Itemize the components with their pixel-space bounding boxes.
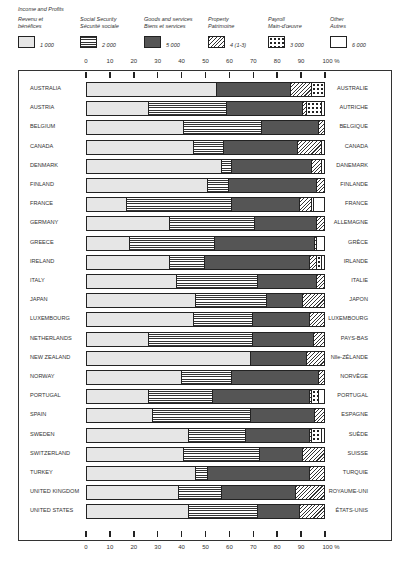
bar-segment-property [291,83,312,96]
legend-value: 6 000 [352,42,366,49]
legend-label-fr: Patrimoine [208,23,234,30]
bar-segment-goods [229,179,317,192]
chart-row: NEW ZEALANDNlle-ZÉLANDE [0,349,404,368]
tick-label: 20 [130,544,137,550]
legend-item-goods: Goods and servicesBiens et services5 000 [144,16,193,30]
bar-segment-other [322,141,324,154]
country-label-en: DENMARK [30,162,58,168]
chart-row: FINLANDFINLANDE [0,176,404,195]
tick-mark [229,531,231,537]
legend-label-en: Goods and services [144,16,193,23]
stacked-bar [86,312,325,327]
bar-segment-property [298,141,322,154]
stacked-bar [86,447,325,462]
bar-segment-property [303,294,324,307]
bar-segment-goods [222,486,295,499]
legend-item-other: OtherAutres6 000 [330,16,346,30]
stacked-bar [86,159,325,174]
tick-label: 0 [84,544,87,550]
bar-segment-income [87,429,189,442]
tick-mark [205,531,207,537]
bar-segment-goods [232,160,313,173]
stacked-bar [86,236,325,251]
country-label-en: SWEDEN [30,431,55,437]
bar-segment-goods [267,294,303,307]
country-label-en: JAPAN [30,296,48,302]
bar-segment-property [317,275,324,288]
legend-label-fr: Sécurité sociale [80,23,119,30]
legend-value: 4 (1-3) [230,42,246,49]
chart-row: AUSTRALIAAUSTRALIE [0,80,404,99]
legend-label-en: Property [208,16,234,23]
bar-segment-ss [177,275,258,288]
stacked-bar [86,82,325,97]
tick-label: 100 % [322,544,339,550]
bar-segment-ss [153,409,250,422]
country-label-en: CANADA [30,143,53,149]
bar-segment-goods [262,121,319,134]
chart-row: AUSTRIAAUTRICHE [0,99,404,118]
tick-mark [276,531,278,537]
country-label-fr: PAYS-BAS [341,335,368,341]
chart-row: IRELANDIRLANDE [0,253,404,272]
bar-segment-income [87,160,222,173]
country-label-en: SPAIN [30,411,46,417]
country-label-fr: Nlle-ZÉLANDE [331,354,368,360]
bar-segment-other [322,429,324,442]
bar-segment-income [87,294,196,307]
country-label-fr: FRANCE [345,200,368,206]
country-label-fr: JAPON [349,296,368,302]
bar-segment-property [310,313,324,326]
tick-mark [181,531,183,537]
bar-segment-income [87,141,194,154]
country-label-en: GERMANY [30,219,58,225]
country-label-fr: SUISSE [347,450,368,456]
stacked-bar [86,332,325,347]
tick-mark [229,72,231,78]
legend-swatch-ss [80,36,97,48]
bar-segment-ss [222,160,231,173]
tick-mark [85,531,87,537]
legend-swatch-income [18,36,35,48]
bar-segment-income [87,333,149,346]
bar-segment-ss [189,429,246,442]
country-label-fr: CANADA [345,143,368,149]
bar-segment-income [87,467,196,480]
country-label-en: AUSTRIA [30,104,54,110]
bar-segment-payroll [312,429,321,442]
stacked-bar [86,466,325,481]
bar-segment-goods [215,237,315,250]
bar-segment-goods [260,448,303,461]
bar-segment-ss [184,448,260,461]
legend-swatch-goods [144,36,161,48]
legend-label-fr: bénéfices [18,23,43,30]
bar-segment-other [319,390,324,403]
tick-mark [300,531,302,537]
bar-segment-income [87,352,251,365]
bar-segment-goods [217,83,290,96]
bar-segment-goods [255,217,317,230]
chart-row: GERMANYALLEMAGNE [0,214,404,233]
tick-label: 40 [178,58,185,64]
legend-swatch-property [208,36,225,48]
stacked-bar [86,255,325,270]
bar-segment-income [87,505,189,518]
legend-label-en: Payroll [268,16,302,23]
bar-segment-ss [127,198,231,211]
country-label-fr: AUSTRALIE [337,85,368,91]
bar-segment-income [87,179,208,192]
bar-segment-goods [227,102,303,115]
bar-segment-property [307,352,324,365]
chart-row: JAPANJAPON [0,291,404,310]
chart-row: SWITZERLANDSUISSE [0,445,404,464]
stacked-bar [86,485,325,500]
tick-mark [324,72,326,78]
bar-segment-payroll [307,102,321,115]
bar-segment-income [87,313,194,326]
bar-segment-goods [213,390,310,403]
tick-label: 90 [298,544,305,550]
bar-segment-ss [170,256,206,269]
tick-mark [157,531,159,537]
country-label-en: UNITED STATES [30,507,73,513]
country-label-en: UNITED KINGDOM [30,488,79,494]
